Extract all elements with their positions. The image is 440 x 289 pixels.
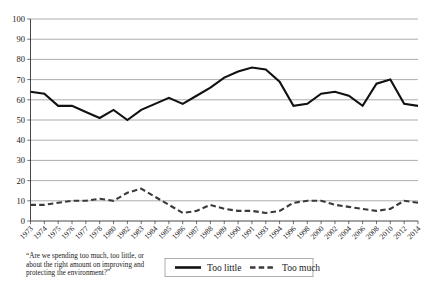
- x-tick-label: 1998: [295, 224, 312, 241]
- x-tick-label: 1993: [253, 224, 270, 241]
- y-tick-label: 60: [17, 95, 26, 105]
- x-tick-label: 2000: [308, 224, 325, 241]
- y-tick-label: 50: [17, 115, 26, 125]
- x-tick-label: 1980: [101, 224, 118, 241]
- x-tick-label: 1985: [156, 224, 173, 241]
- x-tick-label: 1973: [18, 224, 35, 241]
- chart-caption-line: protecting the environment?”: [26, 269, 110, 277]
- chart-caption-line: about the right amount on improving and: [26, 261, 145, 269]
- y-axis-group: [27, 19, 30, 221]
- x-tick-label: 2014: [405, 224, 422, 241]
- y-tick-label: 0: [21, 216, 25, 226]
- x-tick-label: 1991: [239, 224, 256, 241]
- x-tick-label: 2006: [350, 224, 367, 241]
- x-tick-label: 1974: [32, 224, 49, 241]
- y-tick-label: 90: [17, 34, 26, 44]
- x-tick-label: 2012: [391, 224, 408, 241]
- x-tick-label: 2010: [378, 224, 395, 241]
- environment-spending-line-chart: 0102030405060708090100 19731974197519761…: [0, 0, 440, 289]
- x-tick-label: 1978: [87, 224, 104, 241]
- x-tick-label: 1983: [129, 224, 146, 241]
- x-tick-label: 1986: [170, 224, 187, 241]
- x-tick-label: 1977: [73, 224, 90, 241]
- x-tick-label: 1988: [198, 224, 215, 241]
- legend-label-too-little: Too little: [207, 263, 241, 273]
- chart-caption-line: “Are we spending too much, too little, o…: [26, 252, 145, 260]
- x-tick-label: 1990: [225, 224, 242, 241]
- chart-canvas: 0102030405060708090100 19731974197519761…: [0, 0, 440, 289]
- x-tick-label: 1975: [45, 224, 62, 241]
- x-tick-label: 2004: [336, 224, 353, 241]
- x-tick-label: 2002: [322, 224, 339, 241]
- y-tick-label: 10: [17, 196, 26, 206]
- x-tick-label: 2008: [364, 224, 381, 241]
- x-tick-label: 1982: [115, 224, 132, 241]
- x-tick-label: 1989: [212, 224, 229, 241]
- y-tick-label: 30: [17, 155, 26, 165]
- y-tick-label: 40: [17, 135, 26, 145]
- x-tick-label: 1987: [184, 224, 201, 241]
- y-tick-labels-group: 0102030405060708090100: [12, 14, 25, 226]
- x-tick-labels-group: 1973197419751976197719781980198219831984…: [18, 224, 423, 241]
- x-tick-label: 1984: [142, 224, 159, 241]
- series-line-too-little: [31, 67, 419, 120]
- legend-label-too-much: Too much: [282, 263, 320, 273]
- legend-group: Too littleToo much: [165, 259, 320, 277]
- caption-group: “Are we spending too much, too little, o…: [26, 252, 145, 277]
- x-tick-label: 1976: [59, 224, 76, 241]
- y-tick-label: 70: [17, 75, 26, 85]
- x-tick-label: 1996: [281, 224, 298, 241]
- gridlines-group: [31, 19, 419, 201]
- x-tick-label: 1994: [267, 224, 284, 241]
- y-tick-label: 80: [17, 54, 26, 64]
- y-tick-label: 20: [17, 176, 26, 186]
- y-tick-label: 100: [12, 14, 25, 24]
